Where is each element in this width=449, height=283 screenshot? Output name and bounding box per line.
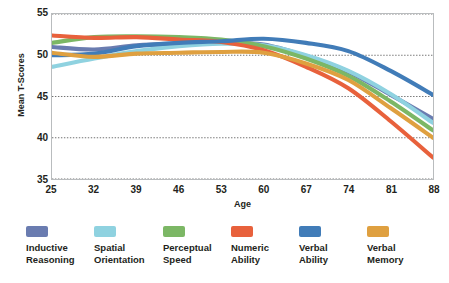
legend-swatch-spatial-orientation: [94, 226, 116, 237]
chart-legend: Inductive ReasoningSpatial OrientationPe…: [26, 226, 436, 281]
x-tick-label: 53: [201, 184, 241, 196]
legend-label-spatial-orientation: Spatial Orientation: [94, 242, 166, 265]
legend-item-spatial-orientation[interactable]: Spatial Orientation: [94, 226, 166, 265]
x-tick-label: 67: [286, 184, 326, 196]
legend-item-perceptual-speed[interactable]: Perceptual Speed: [163, 226, 235, 265]
x-tick-label: 81: [371, 184, 411, 196]
legend-swatch-perceptual-speed: [163, 226, 185, 237]
legend-label-inductive-reasoning: Inductive Reasoning: [26, 242, 98, 265]
legend-label-verbal-memory: Verbal Memory: [367, 242, 439, 265]
x-tick-label: 32: [74, 184, 114, 196]
x-tick-label: 60: [244, 184, 284, 196]
legend-swatch-numeric-ability: [231, 226, 253, 237]
y-axis-tick-labels: 3540455055: [18, 0, 48, 200]
y-tick-label: 40: [22, 133, 48, 143]
x-tick-label: 88: [414, 184, 449, 196]
x-axis-title: Age: [51, 199, 434, 209]
x-axis-tick-labels: 25323946536067748188: [51, 184, 434, 200]
x-tick-label: 46: [159, 184, 199, 196]
y-tick-label: 50: [22, 50, 48, 60]
chart-plot-svg: [52, 14, 433, 179]
legend-label-verbal-ability: Verbal Ability: [299, 242, 371, 265]
legend-swatch-inductive-reasoning: [26, 226, 48, 237]
x-tick-label: 74: [329, 184, 369, 196]
x-tick-label: 39: [116, 184, 156, 196]
legend-item-verbal-memory[interactable]: Verbal Memory: [367, 226, 439, 265]
y-tick-label: 45: [22, 92, 48, 102]
legend-swatch-verbal-memory: [367, 226, 389, 237]
legend-label-numeric-ability: Numeric Ability: [231, 242, 303, 265]
chart-container: Mean T-Scores 3540455055 253239465360677…: [0, 0, 449, 283]
legend-swatch-verbal-ability: [299, 226, 321, 237]
legend-label-perceptual-speed: Perceptual Speed: [163, 242, 235, 265]
plot-area: [51, 13, 434, 180]
x-tick-label: 25: [31, 184, 71, 196]
legend-item-verbal-ability[interactable]: Verbal Ability: [299, 226, 371, 265]
y-tick-label: 55: [22, 8, 48, 18]
legend-item-inductive-reasoning[interactable]: Inductive Reasoning: [26, 226, 98, 265]
legend-item-numeric-ability[interactable]: Numeric Ability: [231, 226, 303, 265]
